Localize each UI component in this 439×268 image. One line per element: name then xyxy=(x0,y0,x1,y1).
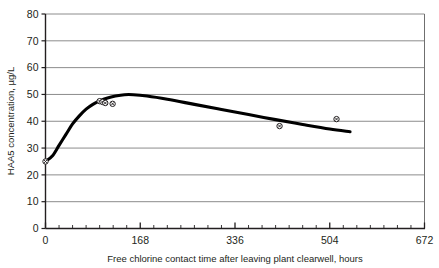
y-axis-tick-labels: 01020304050607080 xyxy=(27,8,39,235)
x-tick-label-336: 336 xyxy=(226,234,244,246)
haa5-contact-time-chart: 01020304050607080 0168336504672 Free chl… xyxy=(0,0,439,268)
x-tick-label-0: 0 xyxy=(43,234,49,246)
y-tick-label-0: 0 xyxy=(33,222,39,234)
data-point-marker xyxy=(334,116,339,121)
chart-figure: 01020304050607080 0168336504672 Free chl… xyxy=(0,0,439,268)
x-axis-title: Free chlorine contact time after leaving… xyxy=(107,253,363,264)
y-tick-label-30: 30 xyxy=(27,142,39,154)
y-tick-label-50: 50 xyxy=(27,88,39,100)
x-tick-label-672: 672 xyxy=(416,234,434,246)
y-tick-label-80: 80 xyxy=(27,8,39,20)
y-axis-title: HAA5 concentration, µg/L xyxy=(5,67,16,175)
y-tick-label-10: 10 xyxy=(27,195,39,207)
data-point-marker xyxy=(43,159,48,164)
data-point-marker xyxy=(277,123,282,128)
y-tick-label-20: 20 xyxy=(27,169,39,181)
x-tick-label-504: 504 xyxy=(321,234,339,246)
data-point-marker xyxy=(103,100,108,105)
y-tick-label-40: 40 xyxy=(27,115,39,127)
data-point-marker xyxy=(110,101,115,106)
y-tick-label-70: 70 xyxy=(27,35,39,47)
y-tick-label-60: 60 xyxy=(27,61,39,73)
x-tick-label-168: 168 xyxy=(131,234,149,246)
